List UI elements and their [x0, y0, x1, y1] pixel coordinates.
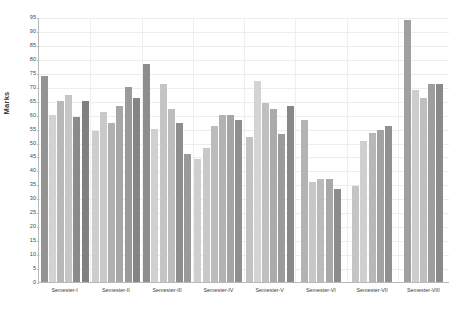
- bar: [301, 120, 308, 282]
- bar-group-5: Semester-V: [244, 18, 295, 282]
- bar: [211, 126, 218, 282]
- bar: [334, 189, 341, 282]
- y-axis-tick-label: 40: [30, 169, 36, 175]
- bar: [160, 84, 167, 282]
- bar: [100, 112, 107, 282]
- bar: [254, 81, 261, 282]
- y-axis-tick-label: 0: [33, 280, 36, 286]
- y-axis-tick-label: 15: [30, 238, 36, 244]
- bar: [176, 123, 183, 282]
- bar: [428, 84, 435, 282]
- bar: [151, 129, 158, 282]
- bar: [65, 95, 72, 282]
- bar-group-8: Semester-VIII: [398, 18, 449, 282]
- bar: [194, 159, 201, 282]
- bar: [116, 106, 123, 282]
- bar: [143, 64, 150, 282]
- bar-group-7: Semester-VII: [347, 18, 398, 282]
- bar: [82, 101, 89, 282]
- bar: [108, 123, 115, 282]
- bar: [133, 98, 140, 282]
- y-axis-title: Marks: [2, 73, 11, 133]
- bar: [57, 101, 64, 282]
- bar: [369, 133, 376, 282]
- bar: [278, 134, 285, 282]
- x-axis-group-label: Semester-IV: [203, 287, 233, 293]
- y-axis-tick-label: 50: [30, 141, 36, 147]
- y-axis-tick-label: 45: [30, 155, 36, 161]
- plot-area: 05101520253035404550556065707580859095 S…: [38, 18, 449, 283]
- bar: [168, 109, 175, 282]
- bar: [262, 103, 269, 282]
- bar-group-3: Semester-III: [142, 18, 193, 282]
- bar: [125, 87, 132, 282]
- bar-group-6: Semester-VI: [295, 18, 346, 282]
- x-axis-group-label: Semester-VIII: [407, 287, 440, 293]
- bar: [270, 109, 277, 282]
- x-axis-group-label: Semester-II: [102, 287, 130, 293]
- bar: [309, 182, 316, 282]
- bar: [219, 115, 226, 282]
- bar-group-1: Semester-I: [39, 18, 90, 282]
- y-axis-tick-label: 65: [30, 99, 36, 105]
- bar: [73, 117, 80, 282]
- bar: [184, 154, 191, 282]
- y-axis-tick-label: 20: [30, 224, 36, 230]
- y-axis-tick-label: 5: [33, 266, 36, 272]
- x-axis-group-label: Semester-VII: [356, 287, 387, 293]
- bar: [246, 137, 253, 282]
- bar: [227, 115, 234, 282]
- bar-group-4: Semester-IV: [193, 18, 244, 282]
- bar: [412, 90, 419, 282]
- bar: [49, 115, 56, 282]
- bar-chart: Marks 0510152025303540455055606570758085…: [0, 0, 464, 312]
- bar: [360, 141, 367, 282]
- bar: [377, 130, 384, 282]
- y-axis-tick-label: 80: [30, 57, 36, 63]
- y-axis-tick-label: 60: [30, 113, 36, 119]
- y-axis-tick-label: 75: [30, 71, 36, 77]
- bar: [436, 84, 443, 282]
- bar-groups: Semester-ISemester-IISemester-IIISemeste…: [39, 18, 449, 282]
- bar: [317, 179, 324, 282]
- bar: [235, 120, 242, 282]
- bar: [92, 131, 99, 282]
- x-axis-group-label: Semester-I: [51, 287, 77, 293]
- bar: [404, 20, 411, 282]
- y-axis-tick-label: 90: [30, 29, 36, 35]
- bar: [203, 148, 210, 282]
- bar: [420, 98, 427, 282]
- y-axis-tick-label: 10: [30, 252, 36, 258]
- y-axis-tick-label: 30: [30, 197, 36, 203]
- bar: [352, 186, 359, 282]
- y-axis-tick-label: 35: [30, 183, 36, 189]
- bar: [287, 106, 294, 282]
- bar: [326, 179, 333, 282]
- y-axis-tick-label: 55: [30, 127, 36, 133]
- bar-group-2: Semester-II: [90, 18, 141, 282]
- y-axis-tick-label: 95: [30, 15, 36, 21]
- bar: [385, 126, 392, 282]
- x-axis-group-label: Semester-III: [152, 287, 181, 293]
- y-axis-tick-label: 70: [30, 85, 36, 91]
- x-axis-group-label: Semester-V: [255, 287, 283, 293]
- y-axis-tick-label: 25: [30, 210, 36, 216]
- x-axis-group-label: Semester-VI: [306, 287, 336, 293]
- y-axis-tick-mark: [37, 283, 39, 284]
- bar: [41, 76, 48, 282]
- y-axis-tick-label: 85: [30, 43, 36, 49]
